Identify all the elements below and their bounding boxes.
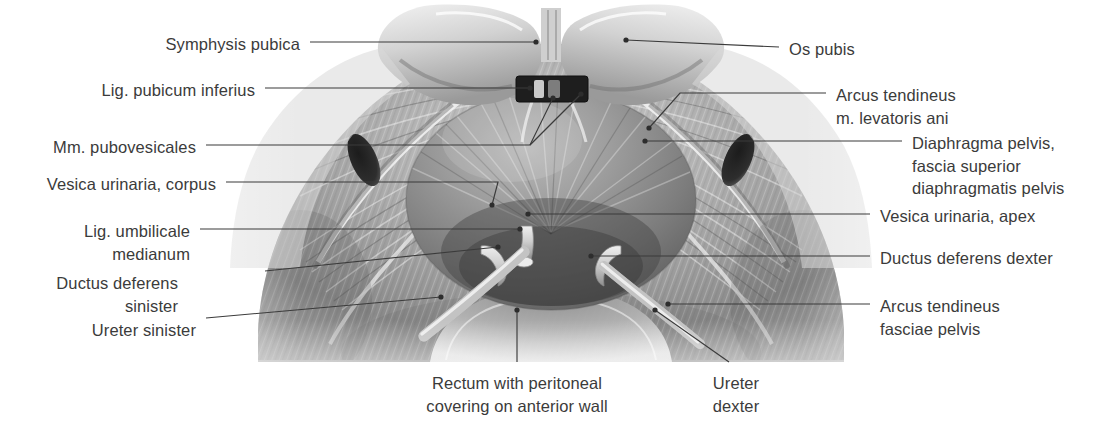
leader-arcus-tendineus-m-levatoris-ani-endpoint	[646, 125, 651, 130]
label-lig-pubicum-inferius: Lig. pubicum inferius	[0, 79, 255, 102]
label-ductus-deferens-sinister: Ductus deferens sinister	[0, 272, 178, 317]
leader-vesica-urinaria-apex-endpoint	[525, 211, 530, 216]
label-ureter-dexter: Ureter dexter	[576, 372, 896, 417]
leader-ductus-deferens-dexter-endpoint	[588, 253, 593, 258]
leader-mm-pubovesicales-endpoint	[550, 95, 555, 100]
label-ureter-sinister: Ureter sinister	[0, 319, 196, 342]
leader-mm-pubovesicales-fork	[530, 94, 581, 145]
leader-diaphragma-pelvis-endpoint	[642, 138, 647, 143]
leader-ureter-dexter-endpoint	[652, 307, 657, 312]
leader-arcus-tendineus-m-levatoris-ani	[649, 93, 826, 128]
leader-os-pubis	[626, 40, 779, 47]
leader-ductus-deferens-sinister-endpoint	[495, 244, 500, 249]
leader-ureter-dexter	[655, 310, 729, 362]
leader-vesica-urinaria-corpus	[226, 182, 498, 205]
anatomical-figure: Symphysis pubicaLig. pubicum inferiusMm.…	[0, 0, 1102, 440]
leader-vesica-urinaria-corpus-endpoint	[489, 202, 494, 207]
label-vesica-urinaria-corpus: Vesica urinaria, corpus	[0, 173, 216, 196]
leader-ureter-sinister	[206, 297, 441, 318]
label-mm-pubovesicales: Mm. pubovesicales	[0, 136, 196, 159]
leader-symphysis-pubica-endpoint	[533, 39, 538, 44]
leader-os-pubis-endpoint	[623, 37, 628, 42]
leader-ductus-deferens-sinister	[265, 247, 498, 271]
label-arcus-tendineus-fasciae-pelvis: Arcus tendineus fasciae pelvis	[880, 295, 1000, 340]
label-ductus-deferens-dexter: Ductus deferens dexter	[880, 247, 1053, 270]
leader-mm-pubovesicales	[206, 98, 553, 145]
label-os-pubis: Os pubis	[789, 38, 855, 61]
label-diaphragma-pelvis: Diaphragma pelvis, fascia superior diaph…	[912, 132, 1064, 200]
label-arcus-tendineus-m-levatoris-ani: Arcus tendineus m. levatoris ani	[836, 84, 956, 129]
label-lig-umbilicale-medianum: Lig. umbilicale medianum	[0, 220, 190, 265]
leader-mm-pubovesicales-fork-endpoint	[578, 91, 583, 96]
leader-arcus-tendineus-fasciae-pelvis-endpoint	[665, 301, 670, 306]
leader-ureter-sinister-endpoint	[438, 294, 443, 299]
label-vesica-urinaria-apex: Vesica urinaria, apex	[880, 205, 1035, 228]
label-symphysis-pubica: Symphysis pubica	[0, 33, 300, 56]
leader-rectum-endpoint	[514, 307, 519, 312]
leader-lig-umbilicale-medianum-endpoint	[517, 226, 522, 231]
leader-lig-pubicum-inferius-endpoint	[527, 85, 532, 90]
